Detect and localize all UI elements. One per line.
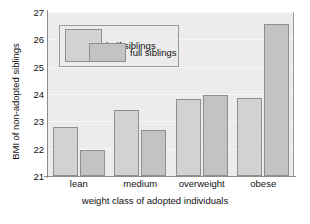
x-axis-tick-obese: obese: [250, 178, 276, 189]
bar-lean-full-siblings: [80, 150, 105, 176]
x-axis-tick-labels: leanmediumoverweightobese: [48, 178, 294, 194]
y-axis-tick-26: 26: [22, 34, 44, 45]
legend: half siblings full siblings: [59, 25, 179, 67]
bar-overweight-full-siblings: [203, 95, 228, 176]
gridline-24: [48, 94, 293, 95]
bar-chart: BMI of non-adopted siblings 212223242526…: [0, 0, 310, 224]
gridline-27: [48, 12, 293, 13]
x-axis-tick-lean: lean: [70, 178, 88, 189]
bar-medium-half-siblings: [114, 110, 139, 176]
legend-item-full-siblings: full siblings: [89, 43, 176, 62]
y-axis-tick-27: 27: [22, 7, 44, 18]
x-axis-tick-overweight: overweight: [179, 178, 225, 189]
bar-medium-full-siblings: [141, 130, 166, 176]
y-axis-tick-23: 23: [22, 116, 44, 127]
legend-label-full-siblings: full siblings: [130, 47, 176, 58]
x-axis-title: weight class of adopted individuals: [0, 195, 310, 206]
bar-overweight-half-siblings: [176, 99, 201, 176]
x-axis-tick-medium: medium: [123, 178, 157, 189]
legend-swatch-full-siblings: [89, 43, 126, 62]
y-axis-tick-21: 21: [22, 171, 44, 182]
x-axis-line: [44, 176, 296, 177]
y-axis-tick-22: 22: [22, 143, 44, 154]
bar-lean-half-siblings: [53, 127, 78, 176]
bar-obese-half-siblings: [237, 98, 262, 176]
y-axis-title: BMI of non-adopted siblings: [10, 14, 21, 189]
y-axis-tick-25: 25: [22, 61, 44, 72]
y-axis-tick-labels: 21222324252627: [22, 0, 44, 224]
bar-obese-full-siblings: [264, 24, 289, 176]
y-axis-tick-24: 24: [22, 89, 44, 100]
